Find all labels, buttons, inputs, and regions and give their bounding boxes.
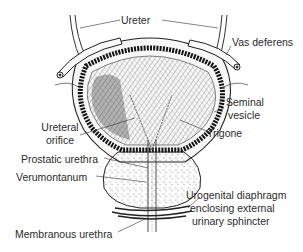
label-seminal-vesicle-line1: Seminal [226,96,264,108]
label-vas-deferens: Vas deferens [232,36,293,48]
label-urogenital-diaphragm-line3: urinary sphincter [192,215,270,227]
label-membranous-urethra: Membranous urethra [15,228,112,240]
label-seminal-vesicle-line2: vesicle [228,109,260,121]
label-prostatic-urethra: Prostatic urethra [21,153,98,165]
label-ureter: Ureter [121,14,150,26]
label-ureteral-orifice-line1: Ureteral [38,121,82,133]
label-urogenital-diaphragm-line2: enclosing external [190,202,275,214]
label-ureteral-orifice-line2: orifice [38,134,82,146]
label-trigone: Trigone [207,127,242,139]
label-verumontanum: Verumontanum [16,171,87,183]
label-urogenital-diaphragm-line1: Urogenital diaphragm [186,189,286,201]
